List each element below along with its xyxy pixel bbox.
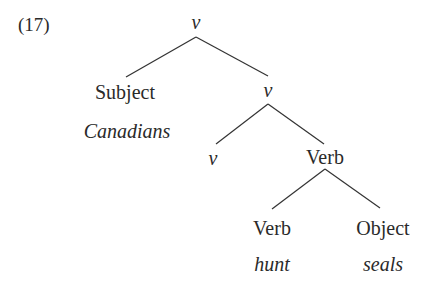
edge-root-vbar — [196, 37, 268, 76]
node-v-bar: v — [264, 80, 273, 100]
edge-verbphrase-object — [325, 169, 380, 208]
node-v-head: v — [209, 148, 218, 168]
node-object: Object — [356, 218, 409, 238]
word-seals: seals — [363, 254, 403, 274]
edge-vbar-vhead — [216, 104, 268, 144]
word-canadians: Canadians — [84, 121, 171, 141]
edge-vbar-verbphrase — [268, 104, 324, 144]
tree-edges — [0, 0, 440, 289]
edge-root-subject — [126, 37, 196, 77]
node-subject: Subject — [95, 82, 155, 102]
node-root-v: v — [192, 12, 201, 32]
word-hunt: hunt — [254, 254, 290, 274]
edge-verbphrase-verb — [272, 169, 325, 209]
node-verb-phrase: Verb — [306, 147, 344, 167]
node-verb: Verb — [253, 218, 291, 238]
